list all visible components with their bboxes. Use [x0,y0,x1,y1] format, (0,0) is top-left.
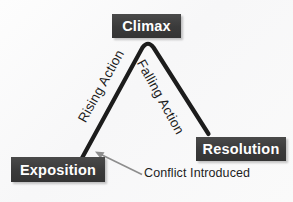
resolution-label: Resolution [203,141,280,157]
conflict-introduced-label: Conflict Introduced [144,166,250,180]
climax-label: Climax [122,18,171,34]
plot-diagram-canvas: Climax Exposition Resolution Rising Acti… [0,0,293,202]
callout-leader-line [99,154,142,175]
label-box-exposition[interactable]: Exposition [11,157,105,182]
label-box-resolution[interactable]: Resolution [196,137,286,161]
exposition-label: Exposition [20,162,96,178]
label-box-climax[interactable]: Climax [112,14,181,38]
